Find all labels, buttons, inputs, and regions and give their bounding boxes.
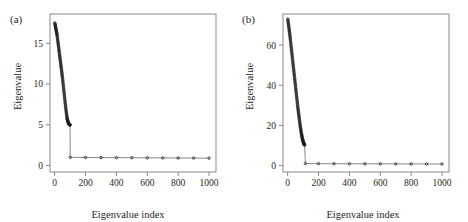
x-tick-label: 400 <box>342 178 357 188</box>
x-tick-label: 0 <box>285 178 290 188</box>
x-tick-label: 0 <box>52 178 57 188</box>
panel-a-xlabel: Eigenvalue index <box>0 209 234 220</box>
panel-a-plot: 02004006008001000051015 <box>0 0 234 222</box>
plot-frame <box>50 14 216 172</box>
y-tick-label: 0 <box>271 161 276 171</box>
x-tick-label: 600 <box>140 178 155 188</box>
panel-a: (a) 02004006008001000051015 Eigenvalue E… <box>0 0 234 222</box>
y-tick-label: 10 <box>34 79 44 89</box>
series-markers <box>287 18 444 165</box>
plot-frame <box>283 14 449 172</box>
y-tick-label: 0 <box>38 161 43 171</box>
series-line <box>288 19 442 164</box>
x-tick-label: 200 <box>78 178 93 188</box>
figure-container: (a) 02004006008001000051015 Eigenvalue E… <box>0 0 468 222</box>
panel-a-ylabel-wrap: Eigenvalue <box>9 0 27 172</box>
x-tick-label: 400 <box>109 178 124 188</box>
panel-b-xlabel: Eigenvalue index <box>234 209 468 220</box>
y-tick-label: 5 <box>38 120 43 130</box>
x-tick-label: 600 <box>373 178 388 188</box>
x-tick-label: 800 <box>404 178 419 188</box>
panel-b-ylabel: Eigenvalue <box>245 62 256 109</box>
x-tick-label: 1000 <box>433 178 452 188</box>
y-tick-label: 15 <box>34 39 44 49</box>
panel-b: (b) 020040060080010000204060 Eigenvalue … <box>234 0 468 222</box>
series-markers <box>54 22 211 160</box>
y-tick-label: 20 <box>267 121 277 131</box>
x-tick-label: 1000 <box>200 178 219 188</box>
panel-b-ylabel-wrap: Eigenvalue <box>241 0 259 172</box>
x-tick-label: 800 <box>171 178 186 188</box>
y-tick-label: 60 <box>267 41 277 51</box>
panel-b-plot: 020040060080010000204060 <box>234 0 468 222</box>
panel-a-ylabel: Eigenvalue <box>13 62 24 109</box>
series-line <box>55 23 209 158</box>
y-tick-label: 40 <box>267 81 277 91</box>
x-tick-label: 200 <box>311 178 326 188</box>
